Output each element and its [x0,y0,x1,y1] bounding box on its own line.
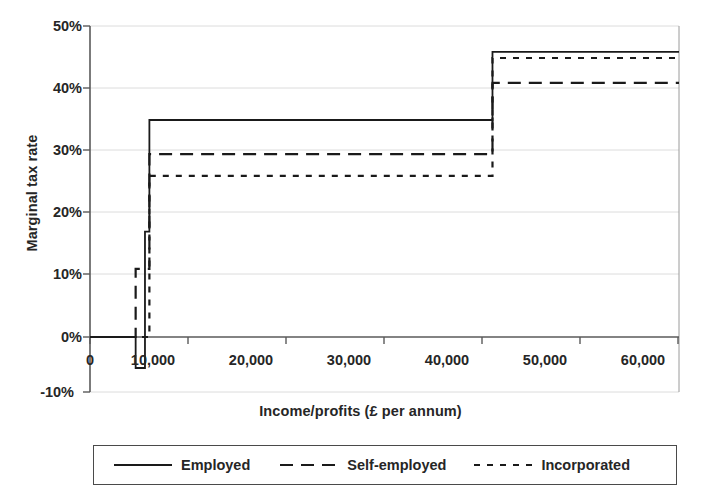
y-tick-label-20: 20% [12,204,82,220]
x-axis-title: Income/profits (£ per annum) [0,403,721,419]
legend-entry-self-employed: Self-employed [278,446,446,484]
x-tick-label-40000: 40,000 [402,352,492,368]
series-line-self-employed [90,83,679,337]
legend-swatch-short-dash [472,459,534,471]
x-tick-label-30000: 30,000 [304,352,394,368]
chart-figure: Marginal tax rate Income/profits (£ per … [0,0,721,501]
legend-label-employed: Employed [181,457,250,473]
series-line-incorporated [90,58,679,337]
y-tick-label-minus10: -10% [4,384,74,400]
y-tick-label-30: 30% [12,142,82,158]
plot-area [0,0,721,501]
y-tick-marks [83,26,90,392]
x-tick-label-20000: 20,000 [206,352,296,368]
x-tick-label-60000: 60,000 [598,352,688,368]
x-tick-label-10000: 10,000 [108,352,198,368]
y-tick-label-0: 0% [12,329,82,345]
data-series-layer [90,52,679,368]
y-tick-label-40: 40% [12,80,82,96]
legend-entry-incorporated: Incorporated [472,446,630,484]
legend-entry-employed: Employed [112,446,250,484]
legend-label-self-employed: Self-employed [347,457,446,473]
y-tick-label-50: 50% [12,18,82,34]
x-tick-label-50000: 50,000 [500,352,590,368]
legend-swatch-long-dash [278,459,340,471]
legend-swatch-solid [112,459,174,471]
x-tick-marks [90,337,678,344]
y-tick-label-10: 10% [12,266,82,282]
series-line-employed [90,52,679,368]
legend-label-incorporated: Incorporated [541,457,630,473]
chart-legend: Employed Self-employed Incorporated [93,445,677,485]
